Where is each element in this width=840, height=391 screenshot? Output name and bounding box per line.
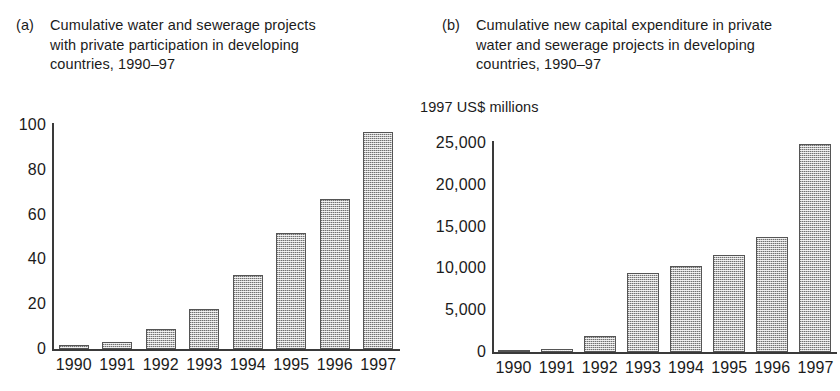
chart-b-x-tick-label: 1997 — [791, 360, 839, 376]
chart-a-x-tick-label: 1994 — [224, 357, 272, 373]
chart-b-y-tick-label: 15,000 — [420, 219, 486, 235]
chart-a-y-axis — [52, 123, 54, 349]
chart-a-y-tick-label: 20 — [2, 296, 46, 312]
bar-1996 — [756, 237, 788, 352]
chart-b-y-tick-label: 0 — [420, 344, 486, 360]
chart-a-x-tick-label: 1993 — [180, 357, 228, 373]
chart-a-x-tick-label: 1990 — [50, 357, 98, 373]
chart-b-y-tick-label: 10,000 — [420, 260, 486, 276]
panel-a-tag: (a) — [16, 16, 50, 36]
bar-1995 — [713, 255, 745, 352]
chart-a-x-tick-label: 1991 — [93, 357, 141, 373]
chart-a-x-tick-label: 1997 — [354, 357, 402, 373]
chart-b-x-axis — [492, 352, 837, 354]
bar-1995 — [276, 233, 306, 349]
chart-b-x-tick-label: 1996 — [748, 360, 796, 376]
chart-a-x-tick-label: 1995 — [267, 357, 315, 373]
chart-b-x-tick-label: 1991 — [533, 360, 581, 376]
bar-1997 — [799, 144, 831, 352]
chart-b-y-tick-label: 25,000 — [420, 135, 486, 151]
panel-a-caption: (a) Cumulative water and sewerage projec… — [16, 16, 346, 75]
chart-a: 020406080100 199019911992199319941995199… — [0, 110, 400, 380]
bar-1990 — [59, 345, 89, 349]
bar-1996 — [320, 199, 350, 349]
chart-b-x-tick-label: 1993 — [619, 360, 667, 376]
bar-1992 — [146, 329, 176, 349]
bar-1997 — [363, 132, 393, 349]
bar-1990 — [498, 350, 530, 352]
chart-b-x-tick-label: 1995 — [705, 360, 753, 376]
panel-b-caption: (b) Cumulative new capital expenditure i… — [442, 16, 812, 75]
chart-b-x-tick-label: 1992 — [576, 360, 624, 376]
chart-a-x-axis — [52, 349, 400, 351]
panel-b-caption-text: Cumulative new capital expenditure in pr… — [476, 16, 812, 75]
panel-a-caption-text: Cumulative water and sewerage projects w… — [50, 16, 346, 75]
chart-b-y-tick-label: 5,000 — [420, 302, 486, 318]
panel-b-tag: (b) — [442, 16, 476, 36]
chart-a-y-tick-label: 80 — [2, 162, 46, 178]
chart-a-y-tick-label: 60 — [2, 207, 46, 223]
panel-b: (b) Cumulative new capital expenditure i… — [420, 0, 840, 391]
chart-a-y-tick-label: 40 — [2, 251, 46, 267]
chart-b-x-tick-label: 1990 — [490, 360, 538, 376]
chart-b-x-tick-label: 1994 — [662, 360, 710, 376]
panel-a: (a) Cumulative water and sewerage projec… — [0, 0, 420, 391]
bar-1994 — [670, 266, 702, 352]
bar-1993 — [627, 273, 659, 352]
chart-a-x-tick-label: 1996 — [311, 357, 359, 373]
bar-1993 — [189, 309, 219, 349]
bar-1992 — [584, 336, 616, 352]
chart-b-y-tick-label: 20,000 — [420, 177, 486, 193]
bar-1994 — [233, 275, 263, 349]
chart-b-unit-label: 1997 US$ millions — [420, 99, 539, 116]
bar-1991 — [102, 342, 132, 349]
chart-a-x-tick-label: 1992 — [137, 357, 185, 373]
bar-1991 — [541, 349, 573, 352]
chart-a-y-tick-label: 100 — [2, 117, 46, 133]
chart-a-y-tick-label: 0 — [2, 341, 46, 357]
chart-b: 05,00010,00015,00020,00025,000 199019911… — [420, 125, 840, 380]
chart-b-y-axis — [492, 141, 494, 352]
